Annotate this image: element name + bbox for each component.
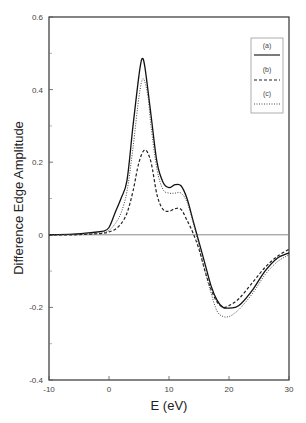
- y-tick-label: 0.4: [32, 86, 44, 95]
- y-tick-label: 0: [39, 231, 44, 240]
- y-axis-label: Difference Edge Amplitude: [11, 121, 26, 275]
- x-tick-label: -10: [43, 385, 55, 394]
- x-tick-label: 0: [107, 385, 112, 394]
- x-tick-label: 20: [225, 385, 234, 394]
- x-tick-label: 30: [285, 385, 294, 394]
- series-line-dashed: [49, 150, 289, 308]
- chart: -0.4-0.200.20.40.6 -100102030 E (eV) Dif…: [0, 0, 306, 423]
- legend-label-a: (a): [263, 42, 272, 50]
- y-tick-label: -0.4: [29, 376, 43, 385]
- legend-label-b: (b): [263, 66, 272, 74]
- x-tick-label: 10: [165, 385, 174, 394]
- y-tick-label: -0.2: [29, 303, 43, 312]
- x-axis-label: E (eV): [151, 398, 188, 413]
- y-tick-label: 0.2: [32, 158, 44, 167]
- legend: (a) (b) (c): [251, 38, 283, 113]
- x-axis-ticks: -100102030: [43, 376, 294, 394]
- y-tick-label: 0.6: [32, 13, 44, 22]
- legend-label-c: (c): [263, 90, 271, 98]
- legend-box: [251, 38, 283, 113]
